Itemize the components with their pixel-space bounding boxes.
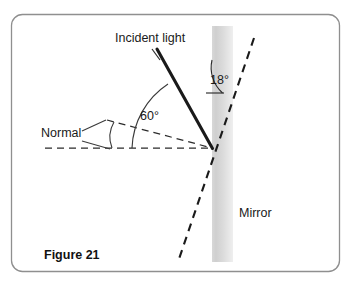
figure-container: Incident light Normal 60° 18° Mirror Fig… <box>0 0 351 286</box>
angle-18-label: 18° <box>210 74 229 87</box>
figure-border <box>12 15 340 272</box>
normal-label: Normal <box>41 127 81 140</box>
incident-light-label: Incident light <box>115 32 185 45</box>
figure-caption: Figure 21 <box>44 249 100 262</box>
mirror-band <box>212 26 233 262</box>
angle-60-label: 60° <box>140 110 159 123</box>
mirror-label: Mirror <box>239 207 272 220</box>
